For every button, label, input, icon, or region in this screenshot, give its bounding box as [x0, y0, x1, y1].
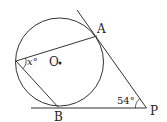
label-angle-p: 54° [117, 95, 135, 106]
angle-arc-x [23, 58, 26, 69]
label-point-p: P [150, 104, 158, 118]
label-center-o: O [49, 55, 59, 69]
angle-arc-p [135, 99, 140, 109]
geometry-diagram: A O x° B 54° P [0, 0, 167, 122]
label-point-a: A [96, 22, 106, 36]
center-dot [59, 62, 62, 65]
tangent-line-pa [77, 10, 147, 108]
label-angle-x: x° [27, 56, 38, 67]
label-point-b: B [54, 110, 63, 122]
